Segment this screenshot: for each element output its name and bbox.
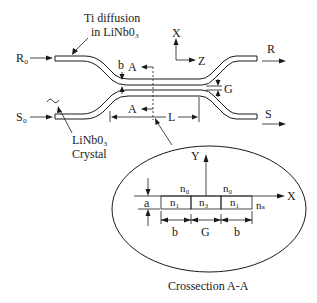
length-l-label: L [168,110,175,124]
r0-input-arrow [30,56,53,61]
s0-input-arrow [30,115,53,120]
thickness-a-label: a [144,196,150,210]
ti-diffusion-label-2: in LiNb0₃ [91,25,139,39]
s-output-arrow [262,122,286,127]
axis-x-label: X [172,26,181,40]
s-label: S [265,107,272,121]
gap-g-dimension [206,79,222,97]
cell-n3-center: n₃ [199,196,209,208]
r-output-arrow [262,59,286,64]
crystal-label-2: Crystal [72,147,107,161]
crossection-caption: Crossection A-A [168,279,249,293]
s0-label: S₀ [16,110,27,124]
ti-diffusion-pointer [72,38,88,55]
r0-label: R₀ [16,51,28,65]
bottom-dimensions [161,211,252,224]
dim-b-left: b [172,225,178,239]
dim-b-right: b [234,225,240,239]
cell-n1-left: n₁ [170,196,180,208]
crystal-squiggle-icon [47,99,59,103]
cell-n1-right: n₁ [230,196,240,208]
crystal-label-1: LiNb0₃ [72,133,108,147]
section-a-top-label: A [128,60,137,74]
section-a-bottom-label: A [128,102,137,116]
gap-g-label: G [224,82,233,96]
upper-waveguide [55,56,257,85]
n0-left-label: n₀ [180,182,190,194]
axis-z-label: Z [198,54,205,68]
y-axis [204,154,209,196]
axis-y-label: Y [191,149,200,163]
width-b-dimension [120,72,125,94]
r-label: R [267,42,275,56]
dim-g-center: G [201,225,210,239]
width-b-label: b [118,58,124,72]
section-line-a-a [141,65,153,121]
substrate-ns-label: nₛ [256,199,266,211]
xz-axes [174,38,197,63]
ti-diffusion-label-1: Ti diffusion [84,11,140,25]
axis-x-crossection-label: X [287,189,296,203]
n0-right-label: n₀ [223,182,233,194]
directional-coupler-diagram: R₀ S₀ R S Ti diffusion in LiNb0₃ LiNb0₃ … [0,0,317,303]
length-l-dimension [110,97,199,122]
